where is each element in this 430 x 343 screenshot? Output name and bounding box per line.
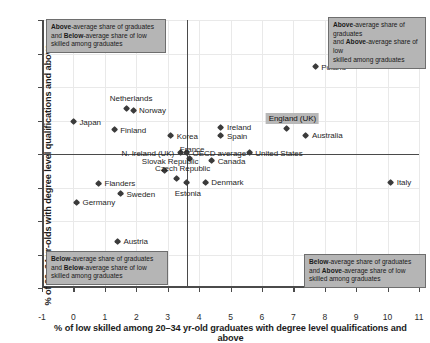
data-point-label: Flanders — [105, 179, 136, 188]
y-tick-mark — [38, 54, 42, 55]
x-tick-mark — [136, 288, 137, 292]
diamond-marker-icon — [114, 237, 121, 244]
x-tick-mark — [199, 288, 200, 292]
diamond-marker-icon — [117, 190, 124, 197]
diamond-marker-icon — [312, 63, 319, 70]
x-tick-mark — [168, 288, 169, 292]
y-tick-mark — [38, 188, 42, 189]
data-point-label: Netherlands — [110, 94, 153, 103]
x-tick-mark — [262, 288, 263, 292]
x-tick-mark — [231, 288, 232, 292]
data-point-label: Ireland — [227, 123, 251, 132]
x-tick-label: 7 — [280, 312, 306, 322]
data-point-label: Estonia — [175, 189, 201, 198]
diamond-marker-icon — [217, 124, 224, 131]
data-point-label: Finland — [120, 125, 146, 134]
x-tick-mark — [356, 288, 357, 292]
x-tick-label: 9 — [343, 312, 369, 322]
quadrant-annotation-bottom-right: Below-average share of graduatesand Abov… — [304, 254, 426, 288]
gridline-horizontal — [42, 188, 419, 189]
y-tick-mark — [38, 121, 42, 122]
x-tick-label: 4 — [186, 312, 212, 322]
y-tick-mark — [38, 255, 42, 256]
y-tick-mark — [38, 221, 42, 222]
diamond-marker-icon — [123, 105, 130, 112]
data-point-label: Germany — [83, 198, 116, 207]
data-point-label: England (UK) — [266, 113, 319, 124]
x-tick-label: 11 — [406, 312, 430, 322]
diamond-marker-icon — [302, 132, 309, 139]
data-point-label: Norway — [139, 106, 166, 115]
data-point-label: Italy — [397, 178, 411, 187]
x-tick-label: 0 — [60, 312, 86, 322]
x-tick-mark — [325, 288, 326, 292]
x-tick-label: 6 — [249, 312, 275, 322]
gridline-horizontal — [42, 87, 419, 88]
x-tick-label: 2 — [123, 312, 149, 322]
data-point-label: Sweden — [127, 189, 156, 198]
x-tick-label: 1 — [92, 312, 118, 322]
gridline-horizontal — [42, 221, 419, 222]
diamond-marker-icon — [173, 174, 180, 181]
quadrant-annotation-top-right: Above-average share of graduatesand Abov… — [328, 17, 426, 69]
y-tick-mark — [38, 20, 42, 21]
diamond-marker-icon — [183, 179, 190, 186]
data-point-label: Spain — [227, 131, 247, 140]
x-tick-mark — [73, 288, 74, 292]
x-tick-mark — [419, 288, 420, 292]
y-tick-mark — [38, 288, 42, 289]
y-tick-mark — [38, 154, 42, 155]
data-point-label: Austria — [123, 237, 148, 246]
data-point-label: Denmark — [211, 178, 243, 187]
diamond-marker-icon — [70, 118, 77, 125]
data-point-label: Japan — [79, 117, 101, 126]
diamond-marker-icon — [217, 132, 224, 139]
x-tick-label: 5 — [218, 312, 244, 322]
diamond-marker-icon — [202, 178, 209, 185]
x-tick-mark — [388, 288, 389, 292]
data-point-label: Korea — [177, 131, 198, 140]
x-tick-label: 8 — [312, 312, 338, 322]
x-tick-label: 3 — [155, 312, 181, 322]
data-point-label: United States — [255, 148, 302, 157]
x-tick-label: 10 — [375, 312, 401, 322]
diamond-marker-icon — [283, 125, 290, 132]
x-tick-mark — [105, 288, 106, 292]
data-point-label: Czech Republic — [155, 164, 210, 173]
diamond-marker-icon — [95, 180, 102, 187]
data-point-label: France — [180, 145, 205, 154]
y-tick-mark — [38, 87, 42, 88]
quadrant-annotation-bottom-left: Below-average share of graduatesand Belo… — [46, 251, 168, 285]
diamond-marker-icon — [111, 126, 118, 133]
x-tick-mark — [293, 288, 294, 292]
data-point-label: Canada — [218, 156, 246, 165]
quadrant-annotation-top-left: Above-average share of graduatesand Belo… — [46, 19, 166, 53]
data-point-label: Australia — [312, 131, 343, 140]
x-axis-label: % of low skilled among 20–34 yr-old grad… — [42, 323, 419, 343]
